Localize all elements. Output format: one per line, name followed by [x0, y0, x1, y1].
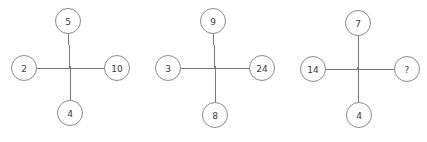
node-label-bottom: 4: [356, 111, 362, 121]
node-bottom[interactable]: 4: [58, 101, 83, 126]
node-left[interactable]: 3: [156, 56, 181, 81]
node-right[interactable]: 24: [250, 56, 275, 81]
node-label-bottom: 4: [67, 109, 73, 119]
node-label-left: 14: [307, 65, 319, 75]
cross-arm-top: [69, 33, 71, 70]
node-label-right: 10: [111, 64, 123, 74]
node-left[interactable]: 2: [12, 56, 37, 81]
cross-2: 93248: [156, 9, 275, 128]
node-right[interactable]: ?: [395, 57, 420, 82]
node-label-left: 3: [165, 64, 171, 74]
node-label-right: 24: [256, 64, 268, 74]
node-left[interactable]: 14: [301, 57, 326, 82]
cross-3: 714?4: [301, 11, 420, 128]
cross-arm-bottom: [358, 67, 359, 103]
node-bottom[interactable]: 8: [203, 103, 228, 128]
node-right[interactable]: 10: [105, 56, 130, 81]
puzzle-canvas: 5210493248714?4: [0, 0, 427, 142]
node-label-left: 2: [21, 64, 27, 74]
node-top[interactable]: 7: [346, 11, 371, 36]
node-label-top: 5: [65, 17, 71, 27]
node-top[interactable]: 5: [56, 9, 81, 34]
node-label-bottom: 8: [212, 111, 218, 121]
node-bottom[interactable]: 4: [347, 103, 372, 128]
node-label-right: ?: [405, 65, 410, 75]
node-label-top: 7: [355, 19, 361, 29]
node-label-top: 9: [210, 17, 216, 27]
cross-puzzle-diagram: 5210493248714?4: [0, 0, 427, 142]
cross-arm-top: [214, 33, 216, 70]
node-top[interactable]: 9: [201, 9, 226, 34]
cross-1: 52104: [12, 9, 130, 126]
